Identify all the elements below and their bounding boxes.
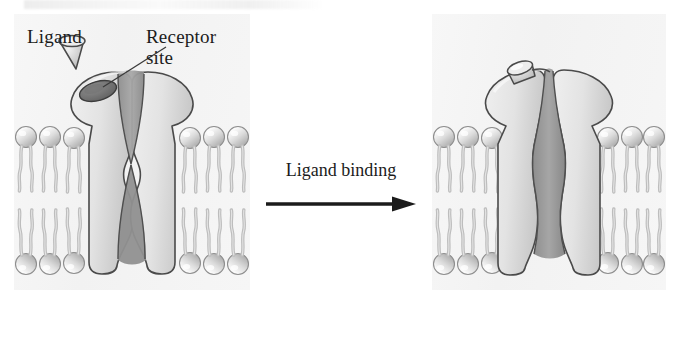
open-channel-illustration (432, 14, 666, 290)
transition-label: Ligand binding (252, 160, 430, 181)
ligand-label: Ligand (27, 26, 82, 47)
ion-channel-protein-open (486, 69, 613, 276)
receptor-site-label: Receptor site (146, 26, 216, 68)
scan-artifact (24, 0, 324, 9)
transition-group: Ligand binding (252, 160, 430, 222)
panel-open-channel (432, 14, 666, 290)
transition-arrow-icon (264, 194, 420, 214)
ligand-gated-channel-figure: Ligand Receptor site Ligand binding (0, 0, 683, 343)
